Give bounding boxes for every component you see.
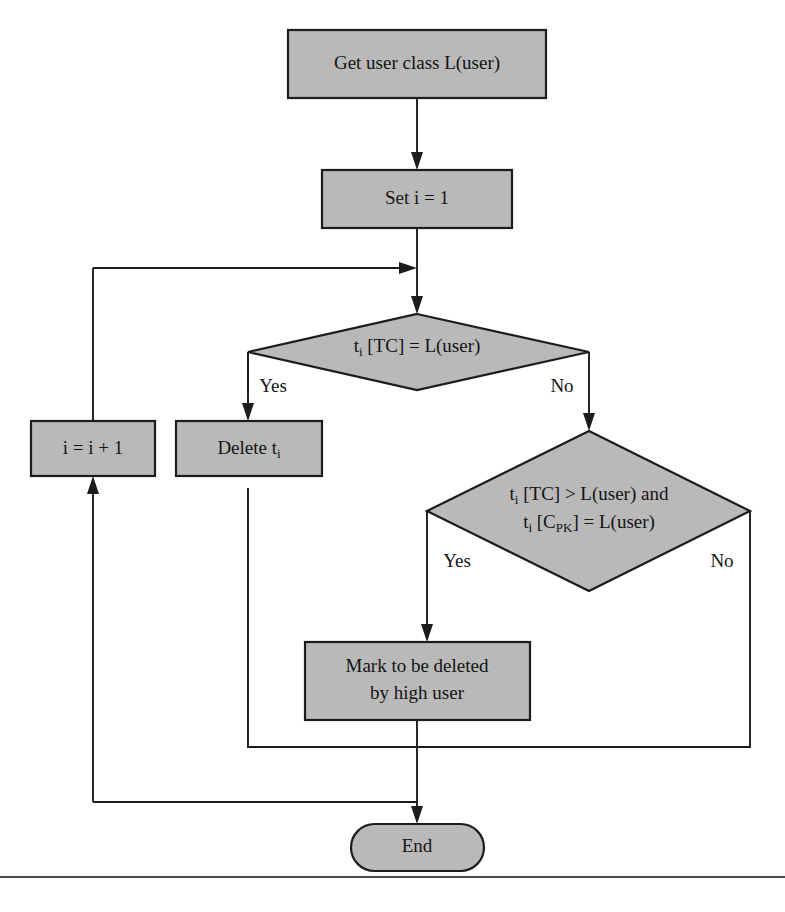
node-get-user-class[interactable]: Get user class L(user) [288,30,546,98]
node-mark-deleted[interactable]: Mark to be deleted by high user [305,642,530,720]
arrowhead-icon [87,476,99,494]
flowchart-canvas: Get user class L(user) Set i = 1 ti [TC]… [0,0,785,912]
node-mark-deleted-line1: Mark to be deleted [346,655,489,676]
node-decision-tc-greater-line2: ti [CPK] = L(user) [523,511,655,535]
node-get-user-class-label: Get user class L(user) [334,52,500,74]
edge-decision1-no-to-decision2 [583,352,595,431]
node-set-i[interactable]: Set i = 1 [322,170,512,228]
node-delete-ti[interactable]: Delete ti [176,421,322,476]
caption-divider [0,876,785,878]
node-delete-ti-label: Delete ti [217,437,281,461]
edge-label-decision2-no: No [710,550,733,571]
edge-decision1-yes-to-delete [242,352,254,421]
node-decision-tc-greater[interactable]: ti [TC] > L(user) and ti [CPK] = L(user) [427,431,750,591]
node-decision-tc-equal[interactable]: ti [TC] = L(user) [248,314,589,390]
node-decision-tc-equal-label: ti [TC] = L(user) [354,335,481,359]
arrowhead-icon [583,413,595,431]
node-mark-deleted-line2: by high user [370,682,465,703]
node-increment-i[interactable]: i = i + 1 [31,421,155,476]
arrowhead-icon [399,262,417,274]
edge-getuser-to-seti [411,98,423,170]
arrowhead-icon [411,296,423,314]
node-decision-tc-greater-line1: ti [TC] > L(user) and [510,483,669,507]
edge-label-decision2-yes: Yes [443,550,471,571]
edge-bus-to-increment [87,476,99,802]
edge-loop-feedback-to-decision1 [93,262,417,274]
node-set-i-label: Set i = 1 [385,187,449,208]
flowchart-page: Get user class L(user) Set i = 1 ti [TC]… [0,0,785,912]
edge-decision2-yes-to-mark [421,511,433,642]
node-increment-i-label: i = i + 1 [63,437,124,458]
arrowhead-icon [411,806,423,824]
arrowhead-icon [242,403,254,421]
edge-label-decision1-yes: Yes [259,375,287,396]
arrowhead-icon [411,152,423,170]
edge-mark-to-end [411,720,423,824]
node-end-label: End [402,835,433,856]
edge-label-decision1-no: No [550,375,573,396]
edge-seti-to-decision1 [411,228,423,314]
node-end[interactable]: End [351,824,484,871]
arrowhead-icon [421,624,433,642]
